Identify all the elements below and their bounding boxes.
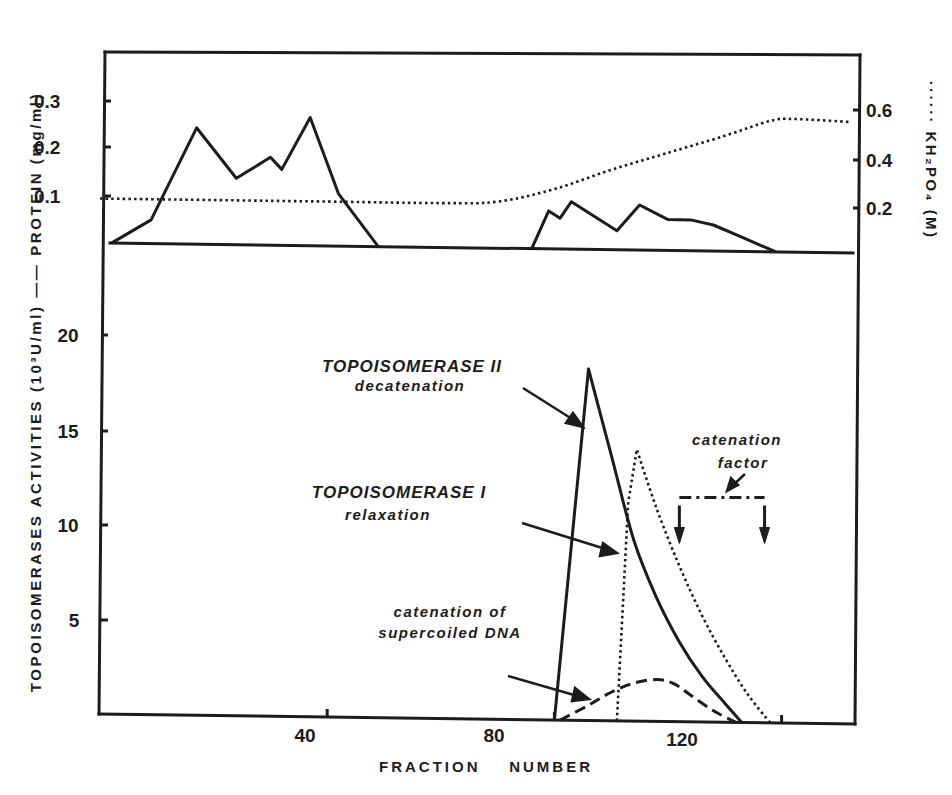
tick-label-kh2po4-0.6: 0.6 <box>866 100 892 121</box>
arrow-topo1 <box>522 523 612 551</box>
catenation-factor-bracket <box>674 497 769 543</box>
anno-factor-line1: catenation <box>692 431 782 448</box>
anno-catenation-line2: supercoiled DNA <box>378 624 521 641</box>
anno-factor-line2: factor <box>718 454 769 471</box>
top-series-0 <box>111 118 378 247</box>
arrowhead-factor-icon <box>727 478 738 491</box>
top-right-tick-labels: 0.6 0.4 0.2 <box>866 100 893 219</box>
bottom-y-tick-labels: 20 15 10 5 <box>57 325 79 631</box>
arrowhead-topo1-icon <box>600 543 617 556</box>
left-axis-title: TOPOISOMERASES ACTIVITIES (10³U/ml) —— P… <box>27 92 44 692</box>
arrow-down-icon <box>760 527 770 543</box>
anno-topo1-sub: relaxation <box>345 506 431 523</box>
tick-label-activity-20: 20 <box>57 325 78 346</box>
annotations: TOPOISOMERASE II decatenation TOPOISOMER… <box>312 357 782 641</box>
left-axis <box>99 52 105 714</box>
top-series-2 <box>100 119 850 203</box>
tick-label-kh2po4-0.4: 0.4 <box>866 150 893 171</box>
anno-catenation-line1: catenation of <box>394 603 507 620</box>
x-tick-labels: 40 80 120 <box>294 725 697 750</box>
tick-label-activity-15: 15 <box>57 421 79 442</box>
tick-label-activity-5: 5 <box>69 610 80 631</box>
anno-topo2-title: TOPOISOMERASE II <box>322 357 502 376</box>
x-axis-title: FRACTION NUMBER <box>379 758 593 775</box>
top-border <box>105 52 860 55</box>
arrowhead-catenation-icon <box>572 688 589 701</box>
right-axis-title: ······ KH₂PO₄ (M) <box>923 81 940 240</box>
arrow-catenation <box>508 676 574 695</box>
arrowhead-topo2-icon <box>566 413 583 427</box>
chart-figure: 0.3 0.2 0.1 0.6 0.4 0.2 20 15 10 5 40 80… <box>0 0 952 795</box>
anno-topo2-sub: decatenation <box>355 377 466 394</box>
tick-label-fraction-40: 40 <box>294 725 315 746</box>
tick-label-activity-10: 10 <box>57 515 78 536</box>
tick-label-fraction-80: 80 <box>483 725 504 746</box>
bottom-series-0 <box>554 369 741 723</box>
anno-topo1-title: TOPOISOMERASE I <box>312 483 487 502</box>
tick-label-kh2po4-0.2: 0.2 <box>866 198 892 219</box>
top-panel-baseline <box>110 243 853 253</box>
tick-label-fraction-120: 120 <box>666 729 698 750</box>
arrow-down-icon <box>674 527 684 543</box>
top-series-1 <box>532 202 776 252</box>
right-axis <box>855 55 860 724</box>
